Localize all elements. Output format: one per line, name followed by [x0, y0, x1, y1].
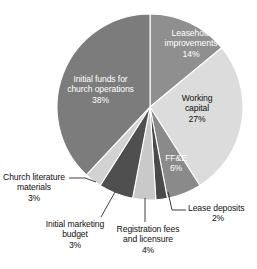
slice-label-initial-funds-church-operations: Initial funds for church operations 38% [47, 74, 154, 105]
slice-label-line2: improvements [143, 38, 239, 48]
slice-label-lease-deposits: Lease deposits 2% [188, 203, 256, 224]
slice-label-line1: Lease deposits [188, 203, 256, 213]
slice-label-line1: Leasehold [143, 28, 239, 38]
pie-chart: Leasehold improvements 14% Working capit… [0, 0, 257, 269]
slice-label-line1: Working [159, 93, 235, 103]
slice-percent: 6% [152, 163, 200, 173]
slice-label-line2: and licensure [110, 234, 186, 244]
slice-label-registration-fees-licensure: Registration fees and licensure 4% [110, 224, 186, 255]
slice-label-line2: church operations [47, 84, 154, 94]
slice-percent: 3% [0, 193, 72, 203]
slice-percent: 4% [110, 245, 186, 255]
slice-label-line2: capital [159, 103, 235, 113]
slice-label-line2: materials [0, 182, 72, 192]
slice-label-line1: Initial marketing [35, 219, 115, 229]
slice-label-leasehold-improvements: Leasehold improvements 14% [143, 28, 239, 59]
slice-label-ffe: FF&E 6% [152, 153, 200, 174]
slice-label-line1: FF&E [152, 153, 200, 163]
slice-label-initial-marketing-budget: Initial marketing budget 3% [35, 219, 115, 250]
slice-label-line1: Church literature [0, 172, 72, 182]
slice-label-church-literature-materials: Church literature materials 3% [0, 172, 72, 203]
leader-line-initial-marketing [101, 192, 115, 217]
slice-label-line1: Registration fees [110, 224, 186, 234]
slice-label-line2: budget [35, 229, 115, 239]
slice-label-line1: Initial funds for [47, 74, 154, 84]
slice-percent: 14% [143, 49, 239, 59]
slice-percent: 3% [35, 240, 115, 250]
slice-percent: 27% [159, 114, 235, 124]
slice-percent: 38% [47, 95, 154, 105]
slice-percent: 2% [188, 213, 248, 223]
slice-label-working-capital: Working capital 27% [159, 93, 235, 124]
